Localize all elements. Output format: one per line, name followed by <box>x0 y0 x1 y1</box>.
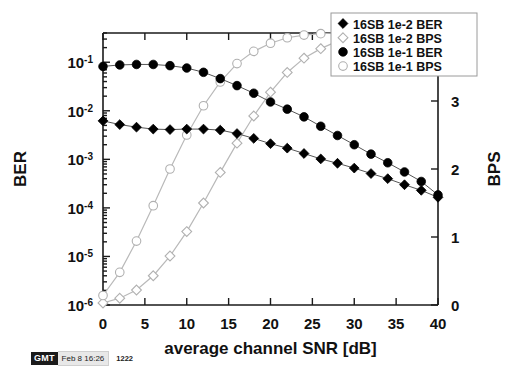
x-tick-label: 15 <box>220 315 237 332</box>
data-marker <box>115 293 125 303</box>
gmt-number-label: 1222 <box>116 354 133 363</box>
data-marker <box>333 158 343 168</box>
gmt-timestamp: GMT Feb 8 16:26 1222 <box>31 352 133 365</box>
data-marker <box>400 180 410 190</box>
data-marker <box>339 62 348 71</box>
data-marker <box>400 168 409 177</box>
data-marker <box>383 158 392 167</box>
data-marker <box>249 133 259 143</box>
data-marker <box>182 64 191 73</box>
series-path <box>103 36 354 303</box>
y-tick-label: 10-4 <box>67 199 93 217</box>
data-marker <box>166 165 175 174</box>
data-marker <box>266 98 275 107</box>
data-marker <box>383 174 393 184</box>
legend-label: 16SB 1e-2 BPS <box>353 32 442 46</box>
y2-tick-label: 3 <box>451 93 459 110</box>
data-marker <box>132 60 141 69</box>
data-marker <box>316 29 325 38</box>
x-tick-label: 25 <box>304 315 321 332</box>
data-marker <box>166 61 175 70</box>
y-tick-label: 10-1 <box>67 54 93 72</box>
data-marker <box>283 33 292 42</box>
data-marker <box>316 122 325 131</box>
chart-canvas: 051015202530354010-110-210-310-410-510-6… <box>0 0 526 384</box>
data-marker <box>99 291 108 300</box>
data-marker <box>199 101 208 110</box>
data-marker <box>333 131 342 140</box>
y-tick-label: 10-5 <box>67 248 93 266</box>
data-marker <box>199 124 209 134</box>
data-marker <box>115 120 125 130</box>
ber-bps-chart: 051015202530354010-110-210-310-410-510-6… <box>0 0 526 384</box>
data-marker <box>316 154 326 164</box>
data-marker <box>249 47 258 56</box>
y2-axis-title: BPS <box>485 152 504 187</box>
y-tick-label: 10-2 <box>67 102 93 120</box>
x-tick-label: 10 <box>178 315 195 332</box>
y-tick-label: 10-3 <box>67 151 93 169</box>
data-marker <box>299 149 309 159</box>
data-marker <box>132 237 141 246</box>
data-marker <box>417 177 426 186</box>
data-marker <box>165 125 175 135</box>
x-tick-label: 35 <box>388 315 405 332</box>
series-16sb-1e-1-bps <box>99 29 359 300</box>
x-axis-title: average channel SNR [dB] <box>164 339 377 358</box>
data-marker <box>300 113 309 122</box>
data-marker <box>300 31 309 40</box>
x-axis-ticks: 0510152025303540 <box>99 33 447 332</box>
data-marker <box>366 169 376 179</box>
data-marker <box>249 111 259 121</box>
y2-tick-label: 2 <box>451 161 459 178</box>
data-marker <box>115 61 124 70</box>
data-marker <box>149 201 158 210</box>
data-marker <box>232 138 242 148</box>
y2-tick-label: 0 <box>451 297 459 314</box>
data-marker <box>199 68 208 77</box>
data-marker <box>249 89 258 98</box>
x-tick-label: 40 <box>430 315 447 332</box>
data-marker <box>215 168 225 178</box>
data-marker <box>316 44 326 54</box>
gmt-date-label: Feb 8 16:26 <box>58 351 110 366</box>
legend-label: 16SB 1e-1 BPS <box>353 60 442 74</box>
y-tick-label: 10-6 <box>67 297 93 315</box>
data-marker <box>349 163 359 173</box>
data-marker <box>115 268 124 277</box>
data-marker <box>182 227 192 237</box>
data-marker <box>215 125 225 135</box>
data-marker <box>283 105 292 114</box>
data-marker <box>266 39 275 48</box>
legend-label: 16SB 1e-2 BER <box>353 18 443 32</box>
x-tick-label: 5 <box>141 315 149 332</box>
x-tick-label: 0 <box>99 315 107 332</box>
data-marker <box>416 185 426 195</box>
y2-tick-label: 1 <box>451 229 459 246</box>
legend-label: 16SB 1e-1 BER <box>353 46 443 60</box>
data-marker <box>266 139 276 149</box>
data-marker <box>132 122 142 132</box>
data-marker <box>434 191 443 200</box>
data-marker <box>148 124 158 134</box>
series-path <box>103 33 354 295</box>
data-marker <box>99 62 108 71</box>
gmt-badge-label: GMT <box>31 352 58 365</box>
data-marker <box>233 81 242 90</box>
data-marker <box>233 59 242 68</box>
data-marker <box>216 74 225 83</box>
data-marker <box>98 116 108 126</box>
x-tick-label: 30 <box>346 315 363 332</box>
data-marker <box>199 198 209 208</box>
legend: 16SB 1e-2 BER16SB 1e-2 BPS16SB 1e-1 BER1… <box>331 13 477 76</box>
y-axis-title: BER <box>11 151 30 187</box>
data-marker <box>282 143 292 153</box>
data-marker <box>367 150 376 159</box>
data-marker <box>339 48 348 57</box>
data-marker <box>149 60 158 69</box>
data-marker <box>350 140 359 149</box>
series-16sb-1e-2-ber <box>98 116 443 202</box>
x-tick-label: 20 <box>262 315 279 332</box>
